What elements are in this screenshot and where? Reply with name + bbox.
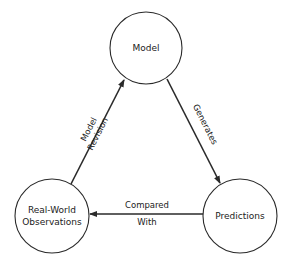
edge-generates-text: Generates	[191, 102, 220, 146]
node-predictions-label: Predictions	[215, 211, 265, 221]
node-predictions: Predictions	[203, 179, 277, 253]
edge-generates-label: Generates	[191, 102, 220, 146]
cycle-diagram: Model Revision Generates Compared With M…	[0, 0, 292, 259]
node-observations-line2: Observations	[22, 217, 82, 227]
node-observations-line1: Real-World	[28, 205, 76, 215]
node-model-label: Model	[132, 43, 159, 53]
edge-compared-with-line2: With	[137, 217, 156, 227]
node-observations-circle	[15, 179, 89, 253]
edge-compared-with-line1: Compared	[125, 200, 169, 210]
node-model: Model	[110, 12, 182, 84]
node-observations: Real-World Observations	[15, 179, 89, 253]
